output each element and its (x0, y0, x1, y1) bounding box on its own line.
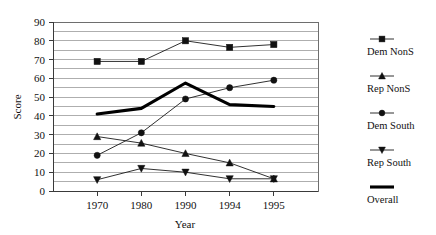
y-axis-ticks: 0102030405060708090 (34, 16, 53, 197)
legend-item-label: Rep NonS (367, 83, 411, 94)
legend-item-label: Dem South (367, 120, 415, 131)
data-point-marker-square (138, 58, 144, 64)
data-point-marker-circle (227, 85, 233, 91)
x-tick-label: 1990 (175, 199, 198, 211)
data-point-marker-square (271, 41, 277, 47)
data-point-marker-square (182, 38, 188, 44)
data-point-marker-circle (182, 96, 188, 102)
data-point-marker-circle (138, 130, 144, 136)
legend-item-rep-south[interactable]: Rep South (367, 147, 412, 168)
x-axis-ticks: 19701980199019941995 (86, 191, 285, 211)
x-tick-label: 1995 (263, 199, 286, 211)
x-tick-label: 1970 (86, 199, 109, 211)
chart-legend: Dem NonSRep NonSDem SouthRep SouthOveral… (367, 36, 415, 205)
data-point-marker-circle (94, 152, 100, 158)
y-tick-label: 10 (34, 166, 46, 178)
y-tick-label: 70 (34, 54, 46, 66)
x-tick-label: 1980 (130, 199, 153, 211)
x-tick-label: 1994 (219, 199, 242, 211)
legend-item-label: Overall (367, 194, 399, 205)
legend-swatch-circle-icon (379, 110, 385, 116)
line-chart-figure: 0102030405060708090 19701980199019941995… (0, 0, 436, 235)
y-tick-label: 50 (34, 91, 46, 103)
y-tick-label: 30 (34, 129, 46, 141)
data-point-marker-square (94, 58, 100, 64)
legend-item-label: Dem NonS (367, 46, 414, 57)
data-point-marker-square (227, 44, 233, 50)
data-point-marker-circle (271, 77, 277, 83)
y-axis-title: Score (11, 94, 23, 119)
x-axis-title: Year (175, 218, 196, 230)
legend-item-dem-nons[interactable]: Dem NonS (367, 36, 414, 57)
legend-item-overall[interactable]: Overall (367, 187, 399, 205)
y-tick-label: 90 (34, 16, 46, 28)
legend-item-dem-south[interactable]: Dem South (367, 110, 415, 131)
y-tick-label: 80 (34, 35, 46, 47)
y-tick-label: 20 (34, 147, 46, 159)
legend-item-label: Rep South (367, 157, 412, 168)
y-tick-label: 40 (34, 110, 46, 122)
legend-item-rep-nons[interactable]: Rep NonS (367, 73, 411, 95)
legend-swatch-square-icon (379, 36, 385, 42)
y-tick-label: 0 (40, 185, 46, 197)
chart-canvas: 0102030405060708090 19701980199019941995… (0, 0, 436, 235)
y-tick-label: 60 (34, 72, 46, 84)
